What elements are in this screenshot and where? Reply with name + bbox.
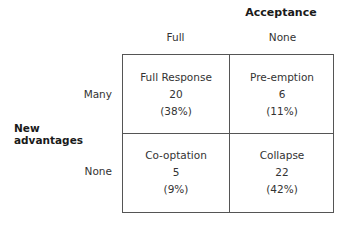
row-axis-title-line1: New — [14, 122, 83, 134]
row-label-none: None — [85, 165, 112, 177]
cell-pre-emption: Pre-emption 6 (11%) — [229, 69, 335, 120]
grid-divider-horizontal — [122, 133, 333, 134]
cell-label: Full Response — [123, 69, 229, 86]
cell-label: Co-optation — [123, 147, 229, 164]
cell-count: 22 — [229, 164, 335, 181]
cell-count: 20 — [123, 86, 229, 103]
cell-percent: (11%) — [229, 103, 335, 120]
cell-count: 6 — [229, 86, 335, 103]
cell-percent: (42%) — [229, 181, 335, 198]
row-axis-title-line2: advantages — [14, 134, 83, 146]
cell-collapse: Collapse 22 (42%) — [229, 147, 335, 198]
cell-label: Pre-emption — [229, 69, 335, 86]
cell-percent: (38%) — [123, 103, 229, 120]
cell-label: Collapse — [229, 147, 335, 164]
row-label-many: Many — [84, 88, 112, 100]
cell-count: 5 — [123, 164, 229, 181]
cell-full-response: Full Response 20 (38%) — [123, 69, 229, 120]
cell-percent: (9%) — [123, 181, 229, 198]
column-label-none: None — [229, 31, 336, 43]
row-axis-title: New advantages — [14, 122, 83, 146]
column-axis-title: Acceptance — [229, 6, 333, 19]
cell-co-optation: Co-optation 5 (9%) — [123, 147, 229, 198]
column-label-full: Full — [122, 31, 229, 43]
